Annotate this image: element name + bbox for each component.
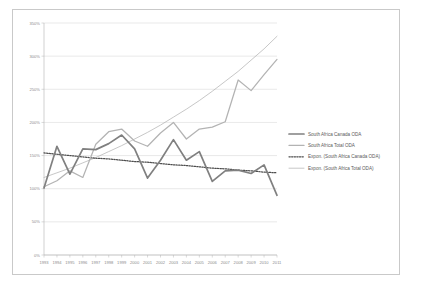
legend-label-2: Expon. (South Africa Canada ODA)	[308, 154, 380, 159]
x-axis-tick-label: 2000	[130, 260, 140, 265]
y-axis-tick-label: 100%	[30, 186, 41, 191]
x-axis-tick-label: 1999	[117, 260, 127, 265]
y-axis-tick-label: 50%	[32, 219, 41, 224]
x-axis-tick-label: 2002	[156, 260, 166, 265]
x-axis-tick-label: 2007	[221, 260, 231, 265]
x-axis-tick-label: 2001	[143, 260, 153, 265]
line-chart: 0%50%100%150%200%250%300%350%19931994199…	[13, 10, 401, 276]
legend-label-1: South Africa Total ODA	[308, 143, 356, 148]
y-axis-tick-label: 200%	[30, 120, 41, 125]
chart-plot-area: 0%50%100%150%200%250%300%350%19931994199…	[13, 10, 401, 276]
x-axis-tick-label: 2006	[208, 260, 218, 265]
x-axis-tick-label: 2009	[247, 260, 257, 265]
series-line-0	[44, 135, 277, 195]
x-axis-tick-label: 1993	[39, 260, 49, 265]
x-axis-tick-label: 1995	[65, 260, 75, 265]
x-axis-tick-label: 2005	[195, 260, 205, 265]
x-axis-tick-label: 1996	[78, 260, 88, 265]
y-axis-tick-label: 300%	[30, 54, 41, 59]
x-axis-tick-label: 1997	[91, 260, 101, 265]
y-axis-tick-label: 150%	[30, 153, 41, 158]
x-axis-tick-label: 2011	[273, 260, 283, 265]
y-axis-tick-label: 0%	[34, 253, 40, 258]
x-axis-tick-label: 2004	[182, 260, 192, 265]
series-line-1	[44, 59, 277, 186]
y-axis-tick-label: 250%	[30, 87, 41, 92]
x-axis-tick-label: 2008	[234, 260, 244, 265]
y-axis-tick-label: 350%	[30, 21, 41, 26]
legend-label-3: Expon. (South Africa Total ODA)	[308, 166, 374, 171]
chart-frame: 0%50%100%150%200%250%300%350%19931994199…	[12, 9, 400, 275]
x-axis-tick-label: 2010	[260, 260, 270, 265]
legend-label-0: South Africa Canada ODA	[308, 132, 362, 137]
x-axis-tick-label: 1998	[104, 260, 114, 265]
x-axis-tick-label: 1994	[52, 260, 62, 265]
x-axis-tick-label: 2003	[169, 260, 179, 265]
